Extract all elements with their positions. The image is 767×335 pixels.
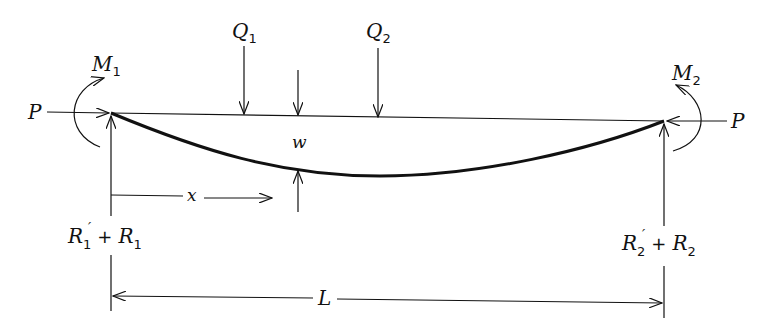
- load-q1-label: Q1: [232, 19, 257, 46]
- prime-mark-left: ′: [88, 220, 92, 236]
- moment-right-arrow: [673, 85, 701, 151]
- deflection-label: w: [292, 132, 307, 152]
- length-dim-arrow-left: [113, 296, 313, 298]
- length-dim-arrow-right: [337, 299, 662, 303]
- axial-load-left-label: P: [27, 100, 42, 124]
- moment-left-label: M1: [91, 52, 121, 79]
- reaction-left-label: R1+R1: [67, 224, 142, 252]
- prime-mark-right: ′: [642, 227, 646, 243]
- position-dim-line-left: [111, 195, 183, 196]
- beam-diagram: P P M1 M2 Q1 Q2 w R1+R1 ′ x R2+R2 ′ L: [0, 0, 767, 335]
- axial-load-left-arrow: [47, 112, 109, 113]
- length-label: L: [317, 286, 331, 310]
- beam-axis: [111, 113, 664, 121]
- reaction-right-label: R2+R2: [621, 231, 696, 259]
- position-label: x: [187, 185, 197, 205]
- load-q2-label: Q2: [366, 19, 391, 46]
- axial-load-right-label: P: [730, 109, 745, 133]
- moment-right-label: M2: [671, 61, 701, 88]
- deflection-curve: [111, 113, 664, 176]
